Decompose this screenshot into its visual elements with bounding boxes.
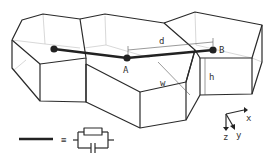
left-prism xyxy=(12,14,86,102)
middle-prism xyxy=(80,14,195,128)
connection-path: A B xyxy=(50,45,224,75)
rc-circuit-icon xyxy=(73,128,114,153)
axes-icon: x z y xyxy=(223,107,252,142)
label-h: h xyxy=(209,72,214,82)
axis-x-label: x xyxy=(246,113,252,123)
prism-diagram: d w h A B x z y ≡ xyxy=(0,0,276,164)
label-d: d xyxy=(159,36,164,46)
node-b xyxy=(209,46,216,53)
node-left xyxy=(50,45,57,52)
dimension-h: h xyxy=(205,58,214,95)
node-a xyxy=(123,54,130,61)
hidden-edges xyxy=(12,12,262,70)
label-b: B xyxy=(219,45,224,55)
legend: ≡ xyxy=(19,128,114,153)
axis-z-label: z xyxy=(223,132,228,142)
right-prism xyxy=(164,12,262,120)
equals-sign: ≡ xyxy=(61,135,67,145)
label-w: w xyxy=(160,78,166,88)
axis-y-label: y xyxy=(236,130,242,140)
label-a: A xyxy=(123,65,129,75)
dimension-w: w xyxy=(158,62,190,95)
